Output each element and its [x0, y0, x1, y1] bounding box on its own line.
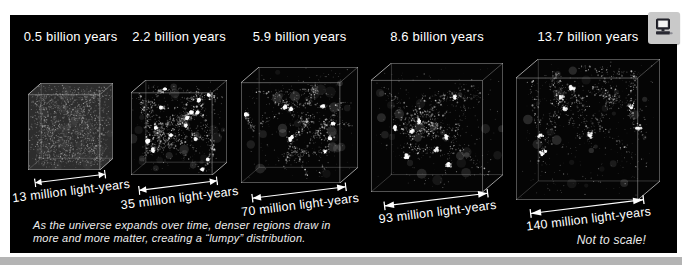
age-label-4: 8.6 billion years	[361, 29, 513, 44]
not-to-scale-note: Not to scale!	[577, 233, 646, 247]
galaxy-structure-cube-5	[516, 59, 660, 200]
universe-evolution-figure: 0.5 billion years 13 million light-years…	[0, 0, 682, 265]
cube-3	[241, 67, 358, 183]
cube-5	[516, 59, 660, 200]
computer-monitor-icon	[652, 16, 676, 40]
caption-line-2: more and more matter, creating a “lumpy”…	[33, 232, 331, 245]
galaxy-structure-cube-4	[371, 63, 503, 192]
cube-4	[371, 63, 503, 192]
animation-media-button[interactable]	[648, 12, 680, 44]
cube-2	[131, 80, 227, 175]
cube-1	[28, 83, 113, 170]
age-label-3: 5.9 billion years	[229, 29, 370, 44]
age-label-5: 13.7 billion years	[506, 29, 670, 44]
caption-line-1: As the universe expands over time, dense…	[33, 219, 331, 232]
page-edge-strip	[0, 257, 682, 265]
age-label-2: 2.2 billion years	[111, 29, 247, 44]
galaxy-structure-cube-1	[28, 83, 113, 170]
figure-caption: As the universe expands over time, dense…	[33, 219, 331, 245]
galaxy-structure-cube-2	[131, 80, 227, 175]
galaxy-structure-cube-3	[241, 67, 358, 183]
